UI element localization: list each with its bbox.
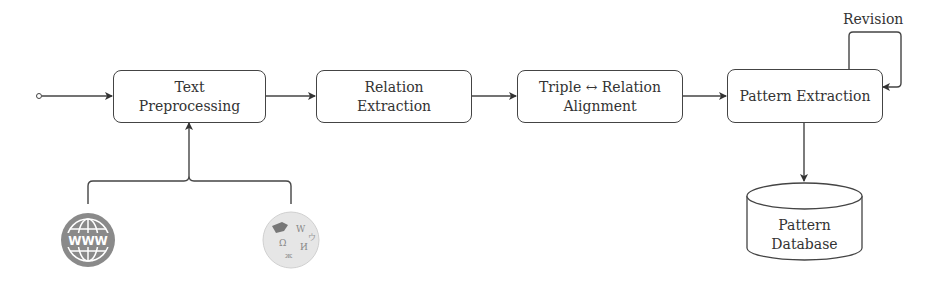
database-label-line2: Database	[747, 235, 862, 254]
start-node	[37, 94, 42, 99]
wikipedia-globe-icon: Ω W И ж ウ	[263, 212, 319, 268]
node-label: Extraction	[357, 97, 431, 116]
node-label: Preprocessing	[139, 97, 240, 116]
sources-merge-connector	[88, 176, 291, 204]
svg-text:И: И	[300, 242, 308, 252]
svg-text:W: W	[296, 224, 306, 234]
svg-text:ウ: ウ	[308, 233, 316, 242]
node-relation-extraction: Relation Extraction	[316, 70, 472, 123]
node-label: Alignment	[563, 97, 636, 116]
svg-text:Ω: Ω	[279, 238, 286, 248]
node-label: Triple ↔ Relation	[539, 78, 661, 97]
database-label: Pattern Database	[747, 216, 862, 254]
www-globe-icon: WWW	[61, 213, 115, 267]
node-pattern-extraction: Pattern Extraction	[727, 69, 883, 123]
svg-text:ж: ж	[285, 251, 293, 260]
node-label: Text	[174, 78, 204, 97]
node-text-preprocessing: Text Preprocessing	[113, 70, 266, 123]
database-label-line1: Pattern	[747, 216, 862, 235]
node-label: Relation	[364, 78, 423, 97]
revision-label: Revision	[843, 11, 903, 27]
node-label: Pattern Extraction	[739, 87, 870, 106]
node-triple-relation-alignment: Triple ↔ Relation Alignment	[517, 70, 683, 123]
svg-text:WWW: WWW	[68, 234, 108, 248]
